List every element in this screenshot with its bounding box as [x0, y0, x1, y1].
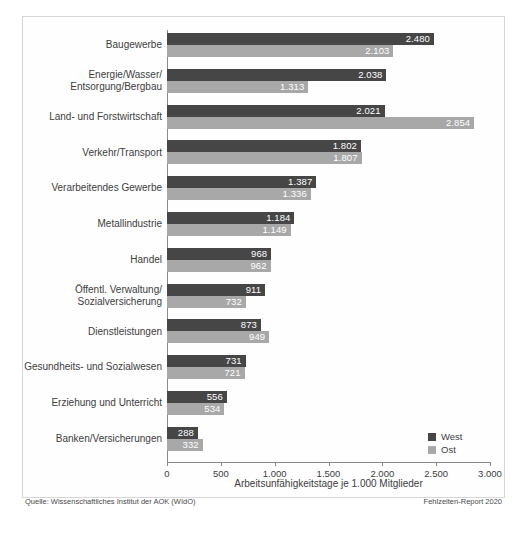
bar-group: 731721: [167, 355, 490, 379]
bar-value-label: 332: [183, 439, 199, 451]
bar-value-label: 721: [224, 367, 240, 379]
category-axis-labels: BaugewerbeEnergie/Wasser/ Entsorgung/Ber…: [20, 30, 162, 460]
bar-ost: 2.103: [167, 45, 393, 57]
category-label: Gesundheits- und Sozialwesen: [22, 361, 162, 373]
bar-west: 556: [167, 391, 227, 403]
x-axis-tick: [275, 462, 276, 466]
x-axis-tick: [382, 462, 383, 466]
category-label: Erziehung und Unterricht: [22, 397, 162, 409]
bar-group: 911732: [167, 284, 490, 308]
category-label: Dienstleistungen: [22, 326, 162, 338]
bar-west: 731: [167, 355, 246, 367]
category-label: Banken/Versicherungen: [22, 433, 162, 445]
category-label: Verkehr/Transport: [22, 147, 162, 159]
legend-swatch-ost-icon: [428, 446, 436, 454]
category-label: Energie/Wasser/ Entsorgung/Bergbau: [22, 69, 162, 92]
legend-item-west: West: [428, 430, 490, 443]
bar-value-label: 2.480: [406, 33, 430, 45]
x-axis: 05001.0001.5002.0002.5003.000: [167, 462, 490, 463]
bar-value-label: 2.021: [356, 105, 380, 117]
bar-value-label: 1.802: [333, 140, 357, 152]
bar-value-label: 556: [207, 391, 223, 403]
x-axis-title: Arbeitsunfähigkeitstage je 1.000 Mitglie…: [167, 478, 490, 489]
report-note: Fehlzeiten-Report 2020: [424, 497, 502, 506]
bar-value-label: 949: [249, 331, 265, 343]
bar-west: 1.802: [167, 140, 361, 152]
bar-value-label: 1.387: [288, 176, 312, 188]
bar-group: 1.1841.149: [167, 212, 490, 236]
bar-ost: 732: [167, 296, 246, 308]
category-label: Öffentl. Verwaltung/ Sozialversicherung: [22, 284, 162, 307]
bar-ost: 1.149: [167, 224, 291, 236]
x-axis-tick: [167, 462, 168, 466]
bar-ost: 1.336: [167, 188, 311, 200]
bar-west: 911: [167, 284, 265, 296]
bar-west: 968: [167, 248, 271, 260]
bar-value-label: 1.184: [266, 212, 290, 224]
category-label: Verarbeitendes Gewerbe: [22, 182, 162, 194]
legend-label-west: West: [441, 431, 462, 442]
bar-west: 2.038: [167, 69, 386, 81]
chart-legend: West Ost: [428, 430, 490, 456]
legend-swatch-west-icon: [428, 433, 436, 441]
bar-ost: 534: [167, 403, 224, 415]
bar-ost: 2.854: [167, 117, 474, 129]
bar-ost: 949: [167, 331, 269, 343]
bar-value-label: 873: [241, 319, 257, 331]
category-label: Baugewerbe: [22, 39, 162, 51]
bar-ost: 332: [167, 439, 203, 451]
bar-value-label: 2.038: [358, 69, 382, 81]
bar-value-label: 2.854: [446, 117, 470, 129]
legend-label-ost: Ost: [441, 444, 456, 455]
bar-west: 288: [167, 427, 198, 439]
bar-value-label: 1.313: [280, 81, 304, 93]
bar-west: 1.184: [167, 212, 294, 224]
bar-ost: 721: [167, 367, 245, 379]
x-axis-tick: [329, 462, 330, 466]
bar-group: 556534: [167, 391, 490, 415]
x-axis-tick: [436, 462, 437, 466]
bar-value-label: 1.807: [333, 152, 357, 164]
bar-value-label: 1.149: [262, 224, 286, 236]
bar-value-label: 968: [251, 248, 267, 260]
bar-ost: 1.807: [167, 152, 362, 164]
bar-group: 873949: [167, 319, 490, 343]
bar-west: 2.021: [167, 105, 385, 117]
bar-value-label: 534: [204, 403, 220, 415]
bar-value-label: 911: [246, 284, 261, 296]
source-note: Quelle: Wissenschaftliches Institut der …: [25, 497, 195, 506]
bar-west: 1.387: [167, 176, 316, 188]
chart-figure: BaugewerbeEnergie/Wasser/ Entsorgung/Ber…: [0, 0, 527, 535]
bar-value-label: 732: [226, 296, 242, 308]
bar-value-label: 288: [178, 427, 194, 439]
bar-group: 1.8021.807: [167, 140, 490, 164]
bar-group: 2.0381.313: [167, 69, 490, 93]
bar-group: 2.4802.103: [167, 33, 490, 57]
bar-value-label: 2.103: [365, 45, 389, 57]
x-axis-tick: [221, 462, 222, 466]
category-label: Metallindustrie: [22, 218, 162, 230]
bar-west: 2.480: [167, 33, 434, 45]
bar-value-label: 731: [226, 355, 242, 367]
bar-ost: 1.313: [167, 81, 308, 93]
legend-item-ost: Ost: [428, 443, 490, 456]
plot-area: 2.4802.1032.0381.3132.0212.8541.8021.807…: [167, 30, 490, 460]
bar-group: 1.3871.336: [167, 176, 490, 200]
bar-group: 2.0212.854: [167, 105, 490, 129]
bar-value-label: 1.336: [283, 188, 307, 200]
category-label: Land- und Forstwirtschaft: [22, 111, 162, 123]
category-label: Handel: [22, 254, 162, 266]
bar-group: 968962: [167, 248, 490, 272]
bar-value-label: 962: [250, 260, 266, 272]
bar-west: 873: [167, 319, 261, 331]
bar-ost: 962: [167, 260, 271, 272]
x-axis-tick: [490, 462, 491, 466]
